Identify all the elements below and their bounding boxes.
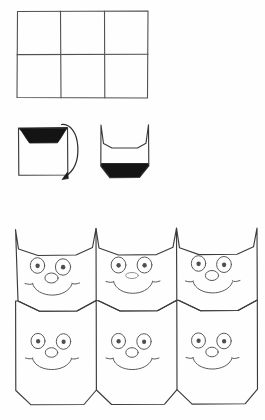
whisker-right — [152, 358, 159, 359]
cat-face-top-right — [186, 256, 241, 293]
nose — [206, 347, 218, 357]
eye-right-outline — [137, 334, 151, 350]
mouth-smile — [33, 359, 72, 370]
cat-face-bottom-right — [186, 333, 239, 369]
nose — [45, 348, 57, 358]
eye-left-outline — [191, 256, 205, 272]
mouth-smile — [113, 359, 152, 370]
eye-right-outline — [56, 334, 70, 350]
whisker-right — [71, 358, 78, 359]
cat-outline-bottom-center — [96, 300, 177, 404]
mouth-smile — [33, 284, 73, 296]
eye-left-outline — [31, 333, 45, 348]
cat-outline-top-center — [96, 228, 177, 311]
cat-outline-bottom-left — [16, 301, 97, 405]
cat-sheet-panel — [0, 0, 265, 420]
nose — [45, 273, 58, 283]
cat-outline-top-right — [177, 228, 258, 311]
eye-right-outline — [217, 257, 232, 273]
diagram-page — [0, 0, 265, 420]
eye-right-outline — [137, 257, 152, 273]
cat-face-bottom-center — [106, 333, 159, 369]
whisker-right — [232, 281, 240, 282]
whisker-right — [232, 358, 239, 359]
whisker-right — [72, 283, 80, 284]
whisker-left — [186, 281, 194, 282]
whisker-right — [152, 281, 160, 282]
whisker-left — [186, 358, 193, 359]
mouth-smile — [193, 358, 232, 369]
eye-right-outline — [217, 333, 231, 349]
whisker-left — [25, 284, 33, 285]
eye-left-outline — [112, 333, 126, 348]
eye-left-outline — [111, 257, 126, 273]
cat-outline-bottom-right — [177, 300, 258, 404]
nose — [126, 348, 138, 358]
whisker-left — [106, 282, 114, 283]
mouth-smile — [114, 282, 153, 294]
nose — [126, 273, 139, 279]
eye-left-outline — [30, 258, 44, 274]
cat-face-bottom-left — [26, 333, 79, 369]
cat-face-top-center — [106, 257, 160, 293]
eye-right-outline — [55, 259, 70, 275]
eye-left-outline — [192, 333, 206, 348]
cat-face-top-left — [25, 258, 80, 295]
whisker-left — [26, 358, 33, 359]
nose — [205, 271, 218, 281]
mouth-smile — [193, 282, 233, 294]
whisker-left — [106, 358, 113, 359]
